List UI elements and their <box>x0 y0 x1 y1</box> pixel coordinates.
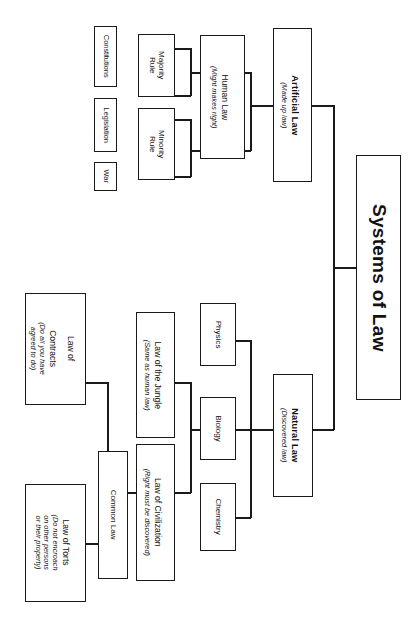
connector-human-spine <box>250 72 252 151</box>
diagram-canvas: Systems of Law Artificial Law (Made up l… <box>0 0 417 623</box>
node-label-constitutions: Constitutions <box>101 35 109 78</box>
connector-commonlaw-to-contracts <box>86 382 108 384</box>
node-label-majority-rule: Majority Rule <box>147 48 165 83</box>
node-label-legislation: Legislation <box>101 107 109 142</box>
node-common-law[interactable]: Common Law <box>98 451 128 579</box>
node-title-law-of-contracts: Law of Contracts <box>48 331 76 368</box>
node-title-artificial-law: Artificial Law <box>290 75 300 135</box>
node-title-human-law: Human Law <box>220 74 230 120</box>
node-biology[interactable]: Biology <box>200 397 236 460</box>
node-subtitle-law-of-torts: (Do not encroach on other persons or the… <box>34 513 59 572</box>
node-subtitle-law-of-contracts: (Do all you have agreed to do) <box>29 320 46 379</box>
node-chemistry[interactable]: Chemistry <box>200 483 236 551</box>
node-law-of-civilization[interactable]: Law of Civilization (Right must be disco… <box>136 444 175 581</box>
node-legislation[interactable]: Legislation <box>94 98 117 152</box>
connector-root-to-artificial <box>312 105 334 107</box>
node-majority-rule[interactable]: Majority Rule <box>138 34 175 97</box>
node-law-of-torts[interactable]: Law of Torts (Do not encroach on other p… <box>25 484 86 602</box>
node-label-physics: Physics <box>213 321 222 349</box>
connector-artificial-to-human <box>251 105 273 107</box>
node-label-law-of-the-jungle: Law of the Jungle (Same as human law) <box>142 340 169 411</box>
node-title-law-of-civilization: Law of Civilization <box>153 478 163 547</box>
node-natural-law[interactable]: Natural Law (Discovered law) <box>273 374 313 497</box>
connector-majority-spine <box>190 48 192 96</box>
connector-natural-stub <box>251 429 273 431</box>
node-label-war: War <box>101 170 109 183</box>
node-subtitle-artificial-law: (Made up law) <box>279 75 287 135</box>
node-subtitle-natural-law: (Discovered law) <box>280 408 288 462</box>
node-law-of-the-jungle[interactable]: Law of the Jungle (Same as human law) <box>136 312 175 438</box>
node-physics[interactable]: Physics <box>200 303 236 366</box>
node-constitutions[interactable]: Constitutions <box>94 26 117 87</box>
node-title-natural-law: Natural Law <box>290 408 300 462</box>
node-systems-of-law[interactable]: Systems of Law <box>356 155 401 400</box>
node-war[interactable]: War <box>94 162 117 191</box>
connector-root-stub <box>334 267 356 269</box>
node-label-biology: Biology <box>213 415 222 442</box>
node-label-chemistry: Chemistry <box>213 499 222 535</box>
node-subtitle-law-of-civilization: (Right must be discovered) <box>142 469 150 556</box>
connector-biology-spine <box>190 382 192 493</box>
node-subtitle-human-law: (Might makes right) <box>209 66 217 128</box>
node-law-of-contracts[interactable]: Law of Contracts (Do all you have agreed… <box>25 293 86 405</box>
node-label-systems-of-law: Systems of Law <box>368 204 390 352</box>
node-title-law-of-the-jungle: Law of the Jungle <box>153 341 163 408</box>
node-subtitle-law-of-the-jungle: (Same as human law) <box>142 340 150 411</box>
node-label-artificial-law: Artificial Law (Made up law) <box>279 75 306 135</box>
node-artificial-law[interactable]: Artificial Law (Made up law) <box>273 28 312 182</box>
node-minority-rule[interactable]: Minority Rule <box>138 108 175 180</box>
connector-minority-spine <box>190 119 192 177</box>
node-label-common-law: Common Law <box>108 490 117 540</box>
node-label-law-of-contracts: Law of Contracts (Do all you have agreed… <box>29 320 82 379</box>
node-label-minority-rule: Minority Rule <box>147 127 165 162</box>
node-label-human-law: Human Law (Might makes right) <box>209 66 236 128</box>
node-label-law-of-civilization: Law of Civilization (Right must be disco… <box>142 469 169 556</box>
node-label-natural-law: Natural Law (Discovered law) <box>280 408 307 462</box>
node-title-law-of-torts: Law of Torts <box>61 520 71 566</box>
node-human-law[interactable]: Human Law (Might makes right) <box>200 35 245 159</box>
node-label-law-of-torts: Law of Torts (Do not encroach on other p… <box>34 513 77 572</box>
connector-root-to-natural <box>312 429 334 431</box>
